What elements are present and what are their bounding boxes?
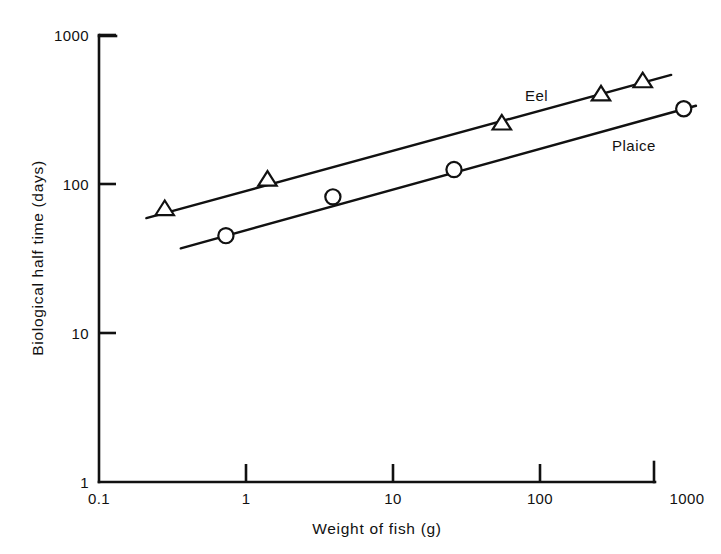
- chart-figure: 1101001000 0.11101001000 Weight of fish …: [0, 0, 721, 554]
- y-axis-ticks: [99, 35, 116, 333]
- data-point-plaice-1: [325, 189, 340, 204]
- fit-lines: [146, 75, 696, 248]
- x-tick-label-1000: 1000: [670, 490, 705, 507]
- x-axis-title: Weight of fish (g): [312, 520, 441, 537]
- data-point-eel-1: [258, 171, 276, 186]
- data-point-eel-0: [156, 200, 174, 215]
- x-tick-label-10: 10: [384, 490, 402, 507]
- data-point-plaice-0: [218, 228, 233, 243]
- y-axis-title: Biological half time (days): [29, 160, 46, 356]
- y-tick-label-1000: 1000: [54, 27, 89, 44]
- log-log-scatter-chart: 1101001000 0.11101001000 Weight of fish …: [0, 0, 721, 554]
- y-tick-label-1: 1: [80, 474, 89, 491]
- x-tick-label-0.1: 0.1: [88, 490, 110, 507]
- data-point-plaice-3: [676, 101, 691, 116]
- y-axis-tick-labels: 1101001000: [54, 27, 89, 491]
- x-tick-label-1: 1: [242, 490, 251, 507]
- x-axis-tick-labels: 0.11101001000: [88, 490, 705, 507]
- fit-line-eel: [146, 75, 671, 218]
- x-axis-ticks: [246, 464, 540, 482]
- x-tick-label-100: 100: [527, 490, 553, 507]
- y-tick-label-10: 10: [72, 325, 90, 342]
- y-tick-label-100: 100: [63, 176, 89, 193]
- series-label-eel: Eel: [525, 87, 548, 104]
- data-point-plaice-2: [446, 162, 461, 177]
- data-markers: [156, 73, 692, 244]
- fit-line-plaice: [181, 106, 696, 249]
- series-label-plaice: Plaice: [612, 137, 656, 154]
